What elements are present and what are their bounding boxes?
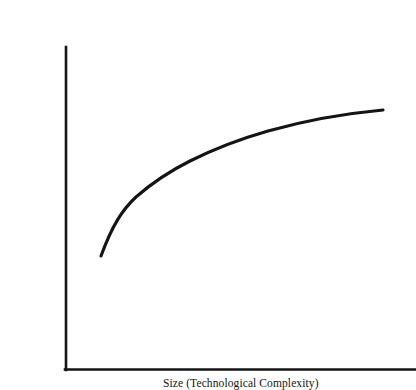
x-axis-label: Size (Technological Complexity) xyxy=(163,377,319,390)
